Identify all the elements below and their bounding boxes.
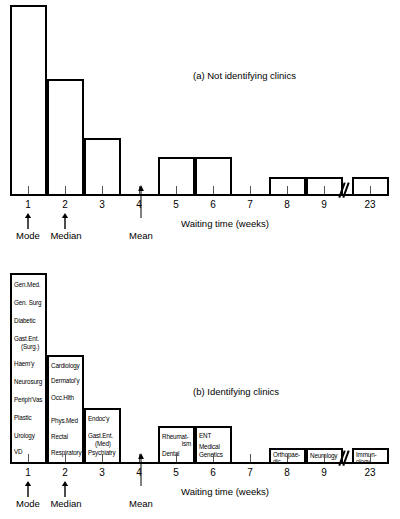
clinic-label: Gen.Med. [14, 281, 45, 288]
clinic-label: Immun- [356, 451, 387, 458]
tick-label-b-3: 3 [99, 467, 105, 478]
clinic-label: Cardiology [51, 362, 82, 369]
median-arrow-a [61, 213, 70, 229]
tick-a-5 [176, 186, 177, 194]
bar-b-week-1: Gen.Med. Gen. Surg Diabetic Gast.Ent. (S… [10, 273, 47, 463]
tick-label-a-2: 2 [62, 199, 68, 210]
tick-label-a-6: 6 [210, 199, 216, 210]
axis-break-icon-b [341, 450, 349, 466]
tick-label-a-9: 9 [321, 199, 327, 210]
clinic-label: Neurology [310, 452, 341, 459]
panel-identifying-clinics: Gen.Med. Gen. Surg Diabetic Gast.Ent. (S… [0, 262, 400, 519]
tick-a-8 [287, 186, 288, 194]
tick-a-6 [213, 186, 214, 194]
clinic-label: Dermatol'y [51, 377, 82, 384]
tick-label-a-8: 8 [284, 199, 290, 210]
tick-label-b-23: 23 [364, 467, 375, 478]
clinic-label: Gast.Ent. [14, 335, 45, 342]
tick-b-9 [324, 454, 325, 462]
x-axis-a [10, 194, 389, 196]
clinic-label: Rectal [51, 433, 82, 440]
tick-label-b-6: 6 [210, 467, 216, 478]
clinic-label: Diabetic [14, 317, 45, 324]
clinic-label: Gast.Ent. [88, 432, 119, 439]
tick-a-7 [250, 186, 251, 194]
clinic-label: Genetics [199, 451, 230, 458]
tick-label-b-7: 7 [247, 467, 253, 478]
x-axis-title-b: Waiting time (weeks) [181, 486, 269, 497]
mean-label-b: Mean [129, 498, 153, 509]
x-axis-title-a: Waiting time (weeks) [181, 218, 269, 229]
clinic-label: Orthopae- [273, 451, 304, 458]
tick-a-9 [324, 186, 325, 194]
bar-b-week-2: Cardiology Dermatol'y Occ.Hlth Phys.Med … [47, 355, 84, 463]
tick-label-b-9: 9 [321, 467, 327, 478]
tick-b-6 [213, 454, 214, 462]
tick-label-b-5: 5 [173, 467, 179, 478]
clinic-label: ENT [199, 432, 230, 439]
tick-b-23 [370, 454, 371, 462]
axis-break-icon-a [341, 182, 349, 198]
clinic-label: Plastic [14, 414, 45, 421]
tick-label-a-1: 1 [25, 199, 31, 210]
tick-a-23 [370, 186, 371, 194]
mean-arrow-b [137, 453, 146, 486]
tick-label-b-8: 8 [284, 467, 290, 478]
clinic-label: Urology [14, 432, 45, 439]
clinic-label: Periph'Vas [14, 396, 45, 403]
panel-b-title: (b) Identifying clinics [193, 386, 279, 397]
mean-label-a: Mean [129, 230, 153, 241]
clinic-label: (Surg.) [21, 343, 45, 350]
clinic-label: Occ.Hlth [51, 394, 82, 401]
tick-label-a-23: 23 [364, 199, 375, 210]
tick-a-3 [102, 186, 103, 194]
clinic-label: ism [182, 440, 191, 447]
mean-arrow-a [137, 185, 146, 218]
tick-b-2 [65, 454, 66, 462]
tick-a-1 [28, 186, 29, 194]
clinic-label: Dental [162, 450, 193, 457]
tick-b-5 [176, 454, 177, 462]
clinic-label: Endoc'y [88, 415, 119, 422]
clinic-label: (Med) [95, 440, 119, 447]
clinic-label: Psychiatry [88, 449, 119, 456]
tick-b-8 [287, 454, 288, 462]
mode-label-b: Mode [16, 498, 40, 509]
tick-label-a-7: 7 [247, 199, 253, 210]
clinic-label: Haem'y [14, 360, 45, 367]
figure-root: 1 2 3 4 5 6 7 8 9 23 Mode [0, 0, 400, 519]
mode-arrow-a [24, 213, 33, 229]
clinic-label: Medical [199, 443, 230, 450]
clinic-label: Neurosurg [14, 378, 45, 385]
tick-label-a-3: 3 [99, 199, 105, 210]
clinic-label: Rheumat- [162, 433, 193, 440]
panel-not-identifying-clinics: 1 2 3 4 5 6 7 8 9 23 Mode [0, 0, 400, 252]
panel-a-title: (a) Not identifying clinics [193, 70, 296, 81]
median-arrow-b [61, 481, 70, 497]
tick-label-b-1: 1 [25, 467, 31, 478]
tick-label-b-2: 2 [62, 467, 68, 478]
clinic-label: Gen. Surg [14, 299, 45, 306]
bar-a-week-1 [10, 5, 47, 195]
tick-a-2 [65, 186, 66, 194]
clinic-label: Phys.Med [51, 417, 82, 424]
clinic-label: Respiratory [51, 449, 82, 456]
mode-label-a: Mode [16, 230, 40, 241]
clinic-label: VD [14, 448, 45, 455]
tick-b-7 [250, 454, 251, 462]
tick-label-a-5: 5 [173, 199, 179, 210]
tick-b-3 [102, 454, 103, 462]
x-axis-b [10, 462, 389, 464]
mode-arrow-b [24, 481, 33, 497]
median-label-b: Median [50, 498, 81, 509]
median-label-a: Median [50, 230, 81, 241]
bar-a-week-2 [47, 79, 84, 195]
tick-b-1 [28, 454, 29, 462]
